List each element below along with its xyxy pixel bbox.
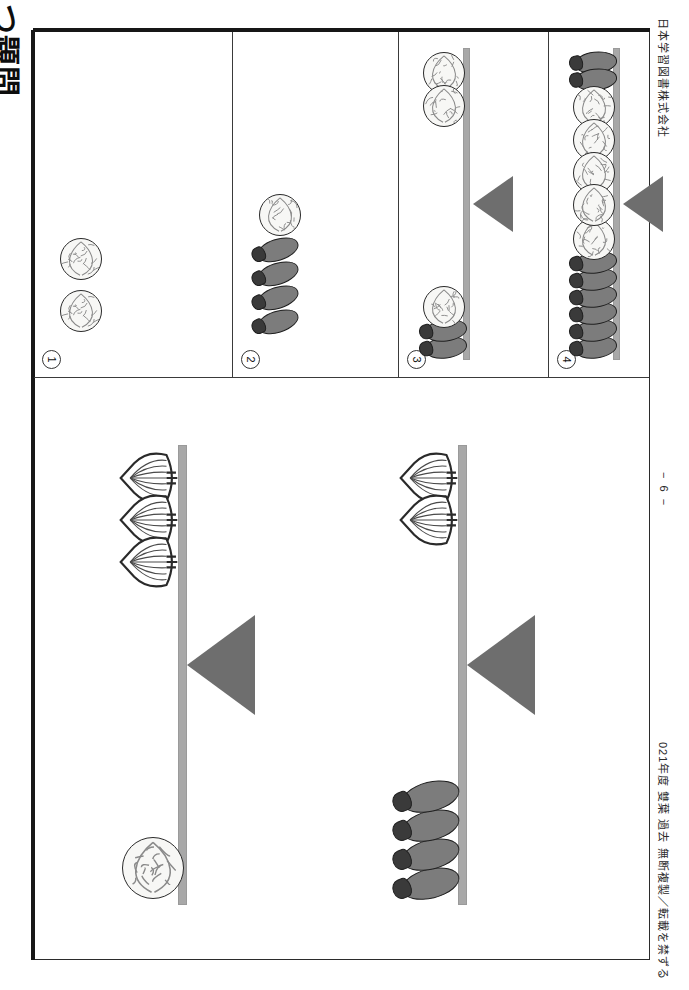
page-number: − 6 − <box>658 472 670 507</box>
page-title: つ題問 <box>0 4 30 97</box>
balance-scene-2 <box>0 0 689 990</box>
onion-icon <box>398 493 460 547</box>
copyright-note: 021年度 雙葉 過去 無断複製／転載を禁ずる <box>656 742 672 980</box>
publisher-mark: 日本学習図書株式会社 <box>656 18 672 138</box>
balance-fulcrum <box>467 615 535 715</box>
worksheet-page: { "document": { "title": "つ題問", "publish… <box>0 0 689 990</box>
